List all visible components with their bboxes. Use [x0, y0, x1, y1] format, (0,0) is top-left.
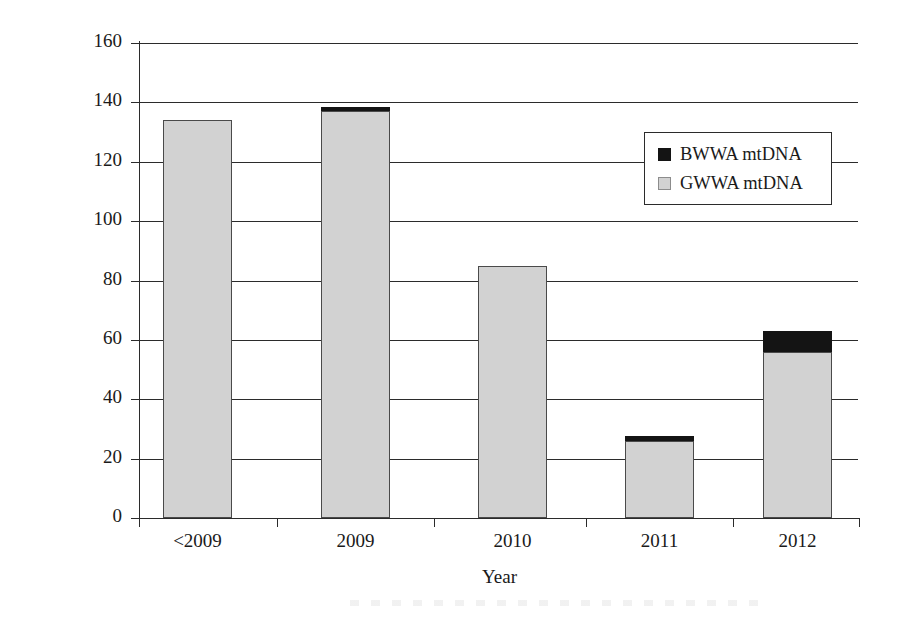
y-axis-tick [131, 399, 139, 400]
x-axis-tick [277, 518, 278, 527]
legend-swatch-gwwa-icon [658, 177, 671, 190]
bar-segment-gwwa [163, 120, 232, 518]
bar-segment-bwwa [321, 107, 390, 111]
legend-item-gwwa: GWWA mtDNA [658, 169, 831, 198]
x-axis-tick-label: 2010 [433, 530, 593, 552]
x-axis-tick-label: 2012 [718, 530, 878, 552]
y-axis-tick-label: 80 [32, 268, 122, 290]
x-axis-tick [139, 518, 140, 527]
legend-label-bwwa: BWWA mtDNA [680, 144, 802, 165]
bar-group [321, 43, 390, 518]
plot-area [139, 43, 858, 518]
legend-label-gwwa: GWWA mtDNA [680, 173, 803, 194]
y-axis-tick [131, 281, 139, 282]
bar-chart-figure: No. vermivora chrysoptera sampled 160140… [0, 0, 901, 620]
x-axis-tick [859, 518, 860, 527]
x-axis-tick-label: 2009 [276, 530, 436, 552]
chart-legend: BWWA mtDNA GWWA mtDNA [644, 132, 832, 205]
y-axis-tick-label: 0 [32, 505, 122, 527]
bar-segment-bwwa [763, 331, 832, 352]
scan-artifact [350, 600, 770, 606]
x-axis-title: Year [139, 566, 860, 588]
y-axis-tick-label: 60 [32, 327, 122, 349]
y-axis-tick [131, 162, 139, 163]
bar-group [763, 43, 832, 518]
y-axis-tick [131, 221, 139, 222]
y-axis-tick [131, 102, 139, 103]
y-axis-tick-label: 140 [32, 89, 122, 111]
bar-group [163, 43, 232, 518]
y-axis-tick-label: 160 [32, 30, 122, 52]
bar-segment-gwwa [763, 352, 832, 518]
x-axis-tick-label: <2009 [118, 530, 278, 552]
bar-segment-gwwa [321, 111, 390, 518]
legend-item-bwwa: BWWA mtDNA [658, 140, 831, 169]
y-axis-tick [131, 518, 139, 519]
bar-segment-gwwa [478, 266, 547, 518]
bar-segment-gwwa [625, 441, 694, 518]
bar-segment-bwwa [625, 436, 694, 440]
y-axis-tick-label: 40 [32, 386, 122, 408]
y-axis-tick [131, 459, 139, 460]
bar-group [625, 43, 694, 518]
y-axis-tick [131, 43, 139, 44]
x-axis-tick [434, 518, 435, 527]
bar-group [478, 43, 547, 518]
y-axis-tick-label: 100 [32, 208, 122, 230]
x-axis-tick [586, 518, 587, 527]
legend-swatch-bwwa-icon [658, 148, 671, 161]
x-axis-line [139, 518, 860, 519]
y-axis-tick-label: 20 [32, 446, 122, 468]
x-axis-tick-label: 2011 [580, 530, 740, 552]
x-axis-tick [733, 518, 734, 527]
y-axis-tick-label: 120 [32, 149, 122, 171]
y-axis-tick [131, 340, 139, 341]
